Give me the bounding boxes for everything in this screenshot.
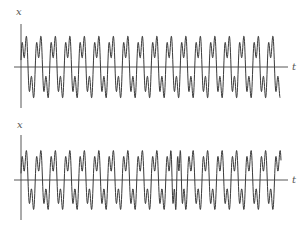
bottom-y-axis-label: x: [17, 119, 23, 130]
bottom-x-axis-label: t: [292, 174, 296, 185]
bottom-plot: x t: [0, 116, 306, 232]
top-waveform-chart: [0, 0, 306, 116]
bottom-waveform-chart: [0, 116, 306, 232]
top-plot: x t: [0, 0, 306, 116]
top-x-axis-label: t: [292, 61, 296, 72]
top-y-axis-label: x: [16, 6, 22, 17]
